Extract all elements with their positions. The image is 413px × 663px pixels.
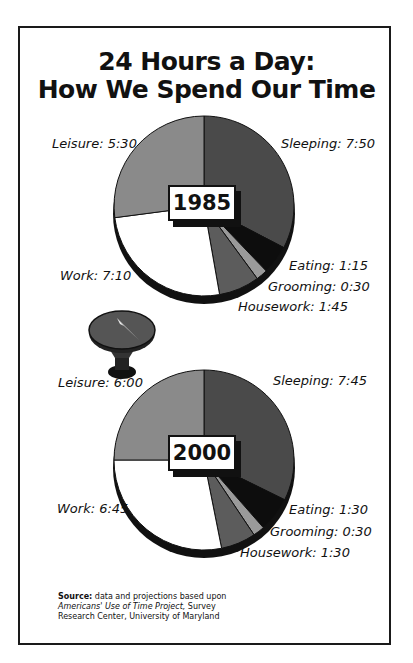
source-line-2-italic: Americans' Use of Time Project, [58,602,185,611]
label-housework-2000: Housework: 1:30 [240,545,350,560]
label-eating-1985: Eating: 1:15 [289,258,368,273]
source-line-1: data and projections based upon [92,592,226,601]
label-eating-2000: Eating: 1:30 [289,502,368,517]
slice-work-2000 [114,460,222,550]
label-work-2000: Work: 6:45 [57,501,128,516]
year-badge-2000: 2000 [168,435,236,471]
label-sleeping-2000: Sleeping: 7:45 [273,373,367,388]
source-line-3: Research Center, University of Maryland [58,612,226,622]
source-note: Source: data and projections based upon … [58,592,226,622]
pie-graphics [0,0,413,663]
label-leisure-1985: Leisure: 5:30 [52,136,137,151]
label-work-1985: Work: 7:10 [60,268,131,283]
label-grooming-1985: Grooming: 0:30 [268,279,370,294]
source-line-2: Survey [185,602,215,611]
year-badge-1985: 1985 [168,185,236,221]
label-housework-1985: Housework: 1:45 [238,299,348,314]
sundial-icon [89,311,155,379]
label-sleeping-1985: Sleeping: 7:50 [281,136,375,151]
label-grooming-2000: Grooming: 0:30 [270,524,372,539]
source-label: Source: [58,592,92,601]
label-leisure-2000: Leisure: 6:00 [58,375,143,390]
